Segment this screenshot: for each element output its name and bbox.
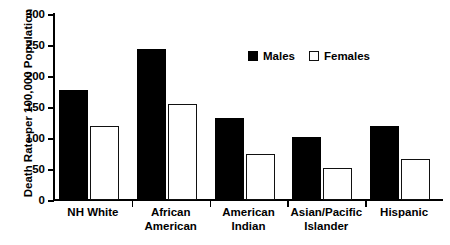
y-axis-tick (48, 14, 54, 16)
y-axis-tick (48, 107, 54, 109)
bar-females-hispanic (401, 159, 430, 200)
x-axis-label-line-1: Asian/Pacific (290, 206, 362, 218)
x-axis-label-african-american: AfricanAmerican (132, 205, 210, 233)
plot-area: 050100150200250300 (54, 14, 443, 200)
y-axis-tick-label: 300 (26, 8, 45, 20)
x-axis-label-line-1: African (151, 206, 191, 218)
bar-females-nh-white (90, 126, 119, 200)
y-axis-tick-label: 200 (26, 70, 45, 82)
bar-females-american-indian (246, 154, 275, 201)
filled-black-square-icon (248, 51, 258, 61)
bar-females-african-american (168, 104, 197, 200)
y-axis-tick (48, 45, 54, 47)
y-axis-tick (48, 200, 54, 202)
legend-label: Males (263, 50, 295, 62)
bar-males-african-american (137, 49, 166, 200)
x-axis-label-line-2: Indian (210, 219, 288, 233)
x-axis-label-asian-pacific-islander: Asian/PacificIslander (287, 205, 365, 233)
x-axis-label-line-1: American (222, 206, 274, 218)
x-axis-label-line-2: Islander (287, 219, 365, 233)
bar-chart-figure: Death Rate per 100,000 Population 050100… (0, 0, 450, 245)
y-axis-tick-label: 250 (26, 39, 45, 51)
bar-males-nh-white (59, 90, 88, 200)
y-axis-tick (48, 138, 54, 140)
y-axis-tick-label: 0 (39, 194, 45, 206)
x-axis-label-line-1: NH White (67, 206, 118, 218)
chart-legend: MalesFemales (248, 50, 370, 62)
y-axis-tick (48, 76, 54, 78)
bar-males-american-indian (215, 118, 244, 200)
legend-label: Females (324, 50, 370, 62)
x-axis-label-line-2: American (132, 219, 210, 233)
bar-males-hispanic (370, 126, 399, 200)
x-axis-label-line-1: Hispanic (380, 206, 428, 218)
x-axis-label-hispanic: Hispanic (365, 205, 443, 219)
x-axis-label-nh-white: NH White (54, 205, 132, 219)
y-axis-tick-label: 100 (26, 132, 45, 144)
bar-males-asian-pacific-islander (292, 137, 321, 200)
open-white-square-icon (309, 51, 319, 61)
y-axis-tick (48, 169, 54, 171)
bar-females-asian-pacific-islander (323, 168, 352, 200)
y-axis-tick-label: 50 (32, 163, 45, 175)
y-axis-tick-label: 150 (26, 101, 45, 113)
legend-item-females: Females (309, 50, 370, 62)
x-axis-label-american-indian: AmericanIndian (210, 205, 288, 233)
legend-item-males: Males (248, 50, 295, 62)
